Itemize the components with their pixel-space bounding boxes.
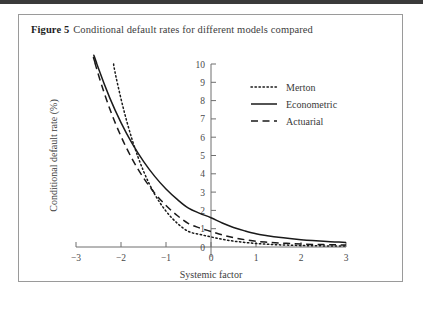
figure-container: Figure 5Conditional default rates for di… <box>18 14 403 282</box>
chart-plot: −3−2−10123012345678910 MertonEconometric… <box>19 15 404 283</box>
legend-label-econometric: Econometric <box>286 99 338 110</box>
x-axis-tick-label: 1 <box>254 253 259 263</box>
y-axis-tick-label: 4 <box>200 169 205 179</box>
x-axis-tick-label: −1 <box>161 253 171 263</box>
x-axis-tick-label: −2 <box>116 253 126 263</box>
chart-legend: MertonEconometricActuarial <box>251 82 338 127</box>
x-axis-tick-label: 3 <box>344 253 349 263</box>
y-axis-tick-label: 3 <box>200 188 205 198</box>
x-axis-tick-label: −3 <box>71 253 81 263</box>
x-axis-tick-label: 2 <box>299 253 304 263</box>
x-axis-tick-label: 0 <box>209 253 214 263</box>
x-axis-title: Systemic factor <box>180 269 243 280</box>
y-axis-tick-label: 0 <box>200 243 205 253</box>
y-axis-title: Conditional default rate (%) <box>48 99 60 211</box>
y-axis-tick-label: 5 <box>200 151 205 161</box>
page-top-rule <box>0 0 423 4</box>
y-axis-tick-label: 8 <box>200 96 205 106</box>
y-axis-tick-label: 10 <box>196 60 206 70</box>
legend-label-merton: Merton <box>286 82 315 93</box>
y-axis-tick-label: 6 <box>200 133 205 143</box>
legend-label-actuarial: Actuarial <box>286 116 323 127</box>
y-axis-tick-label: 7 <box>200 114 205 124</box>
y-axis-tick-label: 9 <box>200 78 205 88</box>
